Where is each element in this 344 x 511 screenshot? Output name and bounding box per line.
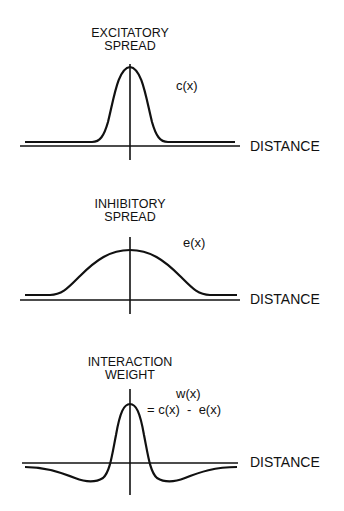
interaction-panel: INTERACTION WEIGHT w(x) = c(x) - e(x) DI… [22,355,320,495]
inhibitory-title-line1: INHIBITORY [94,197,166,211]
excitatory-panel: EXCITATORY SPREAD c(x) DISTANCE [20,26,320,160]
diagram-canvas: EXCITATORY SPREAD c(x) DISTANCE INHIBITO… [0,0,344,511]
inhibitory-title-line2: SPREAD [104,210,155,224]
inhibitory-panel: INHIBITORY SPREAD e(x) DISTANCE [20,197,320,314]
excitatory-title-line2: SPREAD [104,39,155,53]
inhibitory-function-label: e(x) [183,235,205,250]
excitatory-title-line1: EXCITATORY [91,26,169,40]
inhibitory-axis-label: DISTANCE [250,291,320,307]
inhibitory-curve-e [25,250,237,295]
interaction-title-line2: WEIGHT [105,368,155,382]
excitatory-axis-label: DISTANCE [250,138,320,154]
excitatory-function-label: c(x) [176,78,198,93]
interaction-function-formula: = c(x) - e(x) [147,402,221,417]
interaction-title-line1: INTERACTION [88,355,173,369]
interaction-function-label: w(x) [175,386,201,401]
interaction-axis-label: DISTANCE [250,454,320,470]
